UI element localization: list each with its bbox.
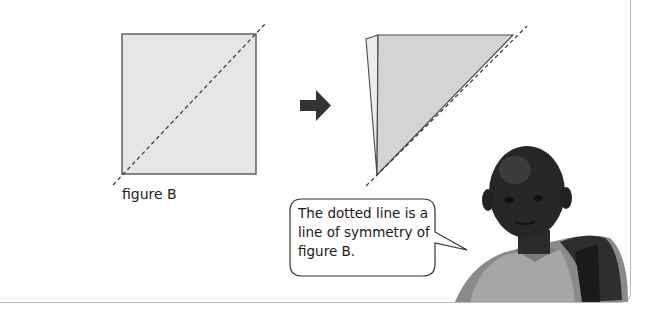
bubble-line: The dotted line is a <box>298 204 438 223</box>
bubble-line: line of symmetry of <box>298 223 438 242</box>
figures-canvas <box>0 0 647 319</box>
figure-caption: figure B <box>122 186 177 202</box>
speech-bubble-text: The dotted line is a line of symmetry of… <box>298 204 438 261</box>
figure-b-square <box>113 24 265 185</box>
right-arrow-icon <box>300 90 331 121</box>
boy-photo <box>455 146 628 302</box>
bubble-line: figure B. <box>298 242 438 261</box>
